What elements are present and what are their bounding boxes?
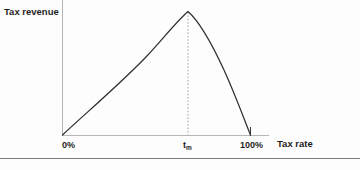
tm-subscript-letter: m — [186, 144, 192, 151]
x-tick-label-hundred: 100% — [240, 141, 263, 150]
x-tick-label-zero: 0% — [62, 141, 75, 150]
x-axis-label: Tax rate — [277, 139, 313, 149]
laffer-curve-figure: Tax revenue Tax rate 0% tm 100% — [0, 0, 360, 170]
y-axis-label: Tax revenue — [4, 7, 59, 17]
x-tick-label-tm: tm — [183, 141, 192, 150]
tax-revenue-curve — [63, 12, 251, 136]
